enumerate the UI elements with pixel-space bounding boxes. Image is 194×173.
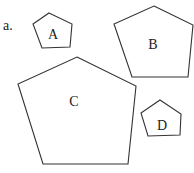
pentagon-c-label: C (69, 94, 78, 109)
pentagon-c (18, 57, 136, 164)
pentagon-a-label: A (48, 27, 59, 42)
problem-label: a. (3, 18, 13, 33)
pentagon-d-label: D (157, 118, 167, 133)
pentagons-diagram: a. A B C D (0, 0, 194, 173)
pentagon-b-label: B (148, 37, 157, 52)
